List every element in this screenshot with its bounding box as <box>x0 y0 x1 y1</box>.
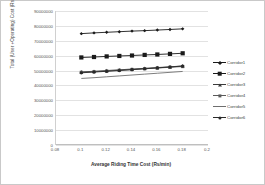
x-axis-tick-label: 0.08 <box>51 147 59 152</box>
data-point-marker <box>80 32 83 35</box>
y-axis-tick-label: 40000000 <box>34 83 53 88</box>
legend-marker <box>213 91 226 100</box>
legend-line <box>213 106 226 107</box>
plot-area <box>55 11 208 145</box>
y-axis-tick-label: 90000000 <box>34 9 53 14</box>
x-axis-tick-label: 0.2 <box>204 147 210 152</box>
legend-marker <box>213 113 226 122</box>
y-axis-tick-labels: 0100000002000000030000000400000005000000… <box>19 11 53 145</box>
series-corridor1 <box>80 27 185 35</box>
x-axis-tick-labels: 0.080.10.120.140.160.180.2 <box>55 147 207 157</box>
legend-label: Corridor6 <box>226 115 245 120</box>
legend-item-corridor4[interactable]: Corridor4 <box>213 90 265 101</box>
data-point-marker <box>118 30 121 33</box>
data-point-marker <box>156 66 159 69</box>
x-axis-tick-label: 0.12 <box>101 147 109 152</box>
legend-marker <box>213 102 226 111</box>
legend-symbol <box>218 94 221 97</box>
legend-label: Corridor4 <box>226 93 245 98</box>
chart-container: Total (User +Operating) Cost (Rs/day) 01… <box>0 0 265 185</box>
data-point-marker <box>130 53 134 57</box>
data-point-marker <box>143 29 146 32</box>
data-point-marker <box>92 31 95 34</box>
data-point-marker <box>117 54 121 58</box>
legend-marker <box>213 69 226 78</box>
legend-label: Corridor3 <box>226 82 245 87</box>
x-axis-tick-label: 0.14 <box>127 147 135 152</box>
legend-label: Corridor1 <box>226 60 245 65</box>
data-point-marker <box>130 68 133 71</box>
legend-label: Corridor2 <box>226 71 245 76</box>
x-axis-tick-label: 0.16 <box>152 147 160 152</box>
x-axis-tick-label: 0.18 <box>177 147 185 152</box>
legend-item-corridor5[interactable]: Corridor5 <box>213 101 265 112</box>
legend-item-corridor3[interactable]: Corridor3 <box>213 79 265 90</box>
data-point-marker <box>168 52 172 56</box>
legend-item-corridor1[interactable]: Corridor1 <box>213 57 265 68</box>
legend-marker <box>213 58 226 67</box>
data-point-marker <box>143 53 147 57</box>
data-point-marker <box>105 70 108 73</box>
y-axis-tick-label: 30000000 <box>34 98 53 103</box>
legend-label: Corridor5 <box>226 104 245 109</box>
y-axis-tick-label: 10000000 <box>34 128 53 133</box>
data-point-marker <box>79 55 83 59</box>
x-axis-title: Average Riding Time Cost (Rs/min) <box>55 162 207 167</box>
legend-symbol <box>217 60 221 64</box>
legend-item-corridor2[interactable]: Corridor2 <box>213 68 265 79</box>
y-axis-title: Total (User +Operating) Cost (Rs/day) <box>7 0 19 89</box>
y-axis-tick-label: 50000000 <box>34 68 53 73</box>
data-point-marker <box>92 55 96 59</box>
data-point-marker <box>105 54 109 58</box>
data-point-marker <box>143 67 146 70</box>
data-point-marker <box>181 64 184 67</box>
data-series-layer <box>56 11 208 145</box>
legend-symbol <box>217 71 222 76</box>
y-axis-tick-label: 80000000 <box>34 23 53 28</box>
data-point-marker <box>105 31 108 34</box>
y-axis-tick-label: 20000000 <box>34 113 53 118</box>
data-point-marker <box>168 28 171 31</box>
data-point-marker <box>80 71 83 74</box>
y-axis-tick-label: 70000000 <box>34 38 53 43</box>
series-corridor2 <box>79 51 185 59</box>
legend-symbol <box>218 116 221 119</box>
series-corridor5 <box>81 71 182 78</box>
data-point-marker <box>156 28 159 31</box>
x-axis-tick-label: 0.1 <box>77 147 83 152</box>
data-point-marker <box>130 29 133 32</box>
y-axis-tick-label: 60000000 <box>34 53 53 58</box>
legend-symbol <box>218 83 222 86</box>
data-point-marker <box>118 69 121 72</box>
data-point-marker <box>92 70 95 73</box>
legend-item-corridor6[interactable]: Corridor6 <box>213 112 265 123</box>
data-point-marker <box>168 65 171 68</box>
chart-legend: Corridor1Corridor2Corridor3Corridor4Corr… <box>213 57 265 123</box>
data-point-marker <box>181 27 184 30</box>
series-line <box>81 71 182 78</box>
data-point-marker <box>155 52 159 56</box>
gridline-horizontal <box>56 145 208 146</box>
data-point-marker <box>181 51 185 55</box>
legend-marker <box>213 80 226 89</box>
